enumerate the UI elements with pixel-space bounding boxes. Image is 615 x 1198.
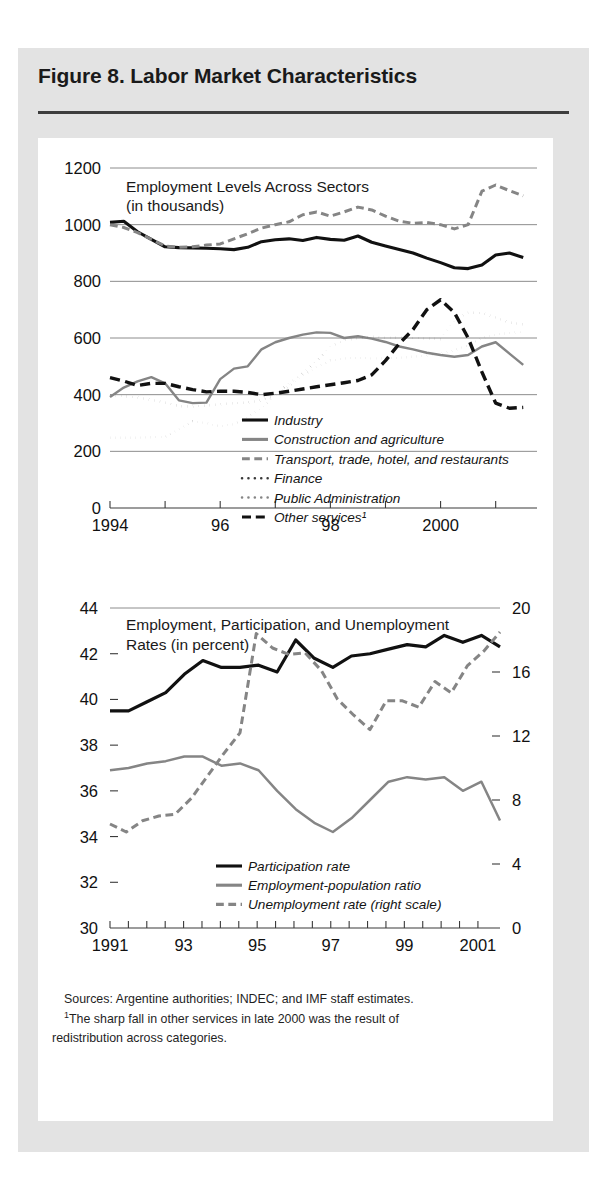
y-tick-label: 800 bbox=[73, 272, 101, 290]
x-tick-label: 2001 bbox=[460, 936, 497, 954]
y-tick-label-left: 38 bbox=[80, 736, 98, 754]
y-tick-label-left: 40 bbox=[80, 690, 98, 708]
title-divider bbox=[38, 111, 569, 114]
sources-line: Sources: Argentine authorities; INDEC; a… bbox=[52, 990, 547, 1009]
y-tick-label: 600 bbox=[73, 329, 101, 347]
series-line bbox=[110, 632, 500, 832]
x-tick-label: 2000 bbox=[422, 516, 459, 534]
figure-notes: Sources: Argentine authorities; INDEC; a… bbox=[52, 990, 547, 1048]
y-tick-label-left: 44 bbox=[80, 599, 98, 617]
y-tick-label: 200 bbox=[73, 442, 101, 460]
legend-label: Construction and agriculture bbox=[274, 432, 444, 447]
footnote-line-2: redistribution across categories. bbox=[52, 1029, 547, 1048]
footnote-text-1: The sharp fall in other services in late… bbox=[69, 1012, 399, 1026]
legend-label: Industry bbox=[274, 413, 324, 428]
figure-page: Figure 8. Labor Market Characteristics 0… bbox=[0, 0, 615, 1198]
y-tick-label-left: 36 bbox=[80, 782, 98, 800]
legend-label: Other services¹ bbox=[274, 510, 367, 525]
legend-label: Transport, trade, hotel, and restaurants bbox=[274, 452, 509, 467]
y-tick-label-right: 12 bbox=[512, 727, 530, 745]
y-tick-label-right: 20 bbox=[512, 599, 530, 617]
chart-employment-levels: 020040060080010001200199496982000Employm… bbox=[38, 142, 553, 582]
series-line bbox=[110, 757, 500, 832]
chart-title: Employment Levels Across Sectors bbox=[126, 178, 369, 195]
figure-title: Figure 8. Labor Market Characteristics bbox=[38, 64, 417, 88]
legend-label: Finance bbox=[274, 471, 323, 486]
chart-subtitle: (in thousands) bbox=[126, 197, 224, 214]
x-tick-label: 93 bbox=[174, 936, 192, 954]
y-tick-label: 400 bbox=[73, 386, 101, 404]
chart-title: Employment, Participation, and Unemploym… bbox=[126, 616, 450, 633]
x-tick-label: 1994 bbox=[92, 516, 129, 534]
y-tick-label-right: 0 bbox=[512, 919, 521, 937]
footnote-line-1: 1The sharp fall in other services in lat… bbox=[52, 1009, 547, 1029]
y-tick-label-left: 34 bbox=[80, 828, 98, 846]
x-tick-label: 95 bbox=[248, 936, 266, 954]
chart-subtitle: Rates (in percent) bbox=[126, 636, 249, 653]
series-line bbox=[110, 332, 523, 403]
x-tick-label: 1991 bbox=[92, 936, 129, 954]
y-tick-label-left: 30 bbox=[80, 919, 98, 937]
y-tick-label: 1200 bbox=[64, 159, 101, 177]
chart-rates: 3032343638404244048121620199193959799200… bbox=[38, 586, 553, 976]
legend-label: Public Administration bbox=[274, 491, 400, 506]
employment-levels-svg: 020040060080010001200199496982000Employm… bbox=[38, 142, 553, 582]
rates-svg: 3032343638404244048121620199193959799200… bbox=[38, 586, 553, 976]
y-tick-label-left: 32 bbox=[80, 873, 98, 891]
chart-panel: 020040060080010001200199496982000Employm… bbox=[38, 138, 553, 1121]
figure-header: Figure 8. Labor Market Characteristics bbox=[18, 48, 589, 128]
y-tick-label-right: 16 bbox=[512, 663, 530, 681]
legend-label: Participation rate bbox=[248, 859, 350, 874]
y-tick-label-right: 4 bbox=[512, 855, 521, 873]
x-tick-label: 99 bbox=[395, 936, 413, 954]
legend-label: Employment-population ratio bbox=[248, 878, 421, 893]
x-tick-label: 96 bbox=[211, 516, 229, 534]
series-line bbox=[110, 221, 523, 268]
x-tick-label: 97 bbox=[322, 936, 340, 954]
y-tick-label: 1000 bbox=[64, 216, 101, 234]
y-tick-label-right: 8 bbox=[512, 791, 521, 809]
y-tick-label-left: 42 bbox=[80, 645, 98, 663]
legend-label: Unemployment rate (right scale) bbox=[248, 897, 441, 912]
y-tick-label: 0 bbox=[92, 499, 101, 517]
